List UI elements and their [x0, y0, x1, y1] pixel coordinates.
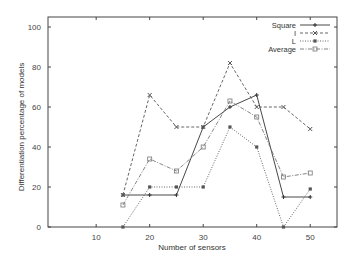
x-tick-label: 40 — [252, 233, 261, 242]
series-square — [121, 93, 312, 199]
y-axis-label: Differentiation percentage of models — [17, 63, 26, 191]
y-tick-label: 40 — [32, 143, 41, 152]
x-tick-label: 30 — [199, 233, 208, 242]
y-tick-label: 100 — [28, 23, 42, 32]
series-layer — [121, 61, 312, 229]
legend-label: Square — [272, 21, 296, 30]
y-axis-ticks: 020406080100 — [28, 23, 337, 232]
line-chart: 1020304050 020406080100 SquareILAverage … — [0, 0, 356, 261]
series-average — [121, 99, 312, 207]
x-tick-label: 50 — [306, 233, 315, 242]
series-i — [121, 61, 312, 197]
x-tick-label: 20 — [145, 233, 154, 242]
series-l — [121, 125, 312, 228]
legend: SquareILAverage — [268, 21, 330, 54]
y-tick-label: 0 — [37, 223, 42, 232]
legend-label: Average — [268, 45, 296, 54]
y-tick-label: 20 — [32, 183, 41, 192]
y-tick-label: 80 — [32, 63, 41, 72]
y-tick-label: 60 — [32, 103, 41, 112]
x-axis-label: Number of sensors — [158, 243, 226, 252]
x-tick-label: 10 — [92, 233, 101, 242]
